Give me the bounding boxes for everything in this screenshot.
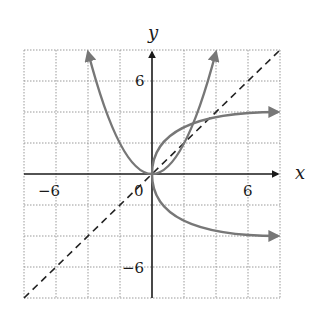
y-axis-label: y	[147, 22, 159, 43]
origin-label: 0	[134, 182, 144, 200]
function-graph: y x 6 −6 −6 6 0	[0, 0, 319, 314]
x-tick-neg6: −6	[38, 182, 60, 200]
x-axis-label: x	[295, 162, 305, 183]
y-tick-6: 6	[135, 72, 145, 90]
x-tick-6: 6	[243, 182, 253, 200]
y-tick-neg6: −6	[122, 259, 144, 277]
